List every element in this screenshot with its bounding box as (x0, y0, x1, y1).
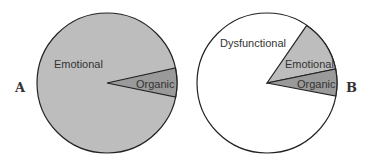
pie-b-dysfunctional-label: Dysfunctional (220, 37, 286, 49)
pie-a-organic-label: Organic (136, 78, 175, 90)
panel-label-b: B (346, 80, 357, 95)
pie-b-emotional-label: Emotional (285, 58, 334, 70)
pie-b-organic-label: Organic (297, 78, 336, 90)
panel-label-a: A (14, 80, 26, 95)
pie-chart-figure: Emotional Organic A Dysfunctional Emotio… (0, 0, 366, 165)
pie-a-emotional-label: Emotional (54, 58, 103, 70)
pie-chart-a: Emotional Organic A (14, 13, 177, 153)
pie-chart-b: Dysfunctional Emotional Organic B (197, 13, 357, 153)
